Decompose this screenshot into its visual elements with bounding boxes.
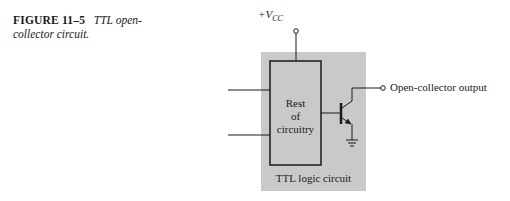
inner-block-label: Rest of circuitry <box>270 97 321 136</box>
package-label: TTL logic circuit <box>261 172 366 185</box>
vcc-terminal <box>294 29 299 34</box>
output-label: Open-collector output <box>390 81 487 94</box>
circuit-diagram <box>0 0 510 201</box>
output-terminal <box>381 86 386 91</box>
